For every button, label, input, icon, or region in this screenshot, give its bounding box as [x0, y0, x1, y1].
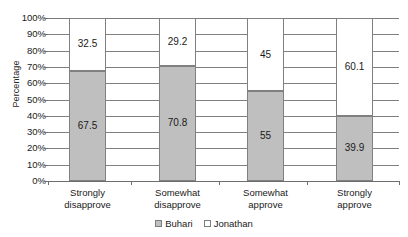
- bar-value-label-buhari: 39.9: [336, 143, 373, 153]
- legend-label: Buhari: [165, 218, 192, 229]
- category-label-line: Somewhat: [134, 187, 222, 199]
- x-axis-tick-mark: [399, 181, 400, 185]
- bar-value-label-jonathan: 45: [247, 50, 284, 60]
- category-label-line: Strongly: [44, 187, 132, 199]
- y-tick-label: 30%: [12, 127, 46, 137]
- x-axis-tick-mark: [131, 181, 132, 185]
- y-tick-label: 10%: [12, 160, 46, 170]
- x-axis-category-label: Stronglyapprove: [311, 187, 399, 211]
- category-label-line: Strongly: [311, 187, 399, 199]
- legend-label: Jonathan: [214, 218, 253, 229]
- y-axis-tick-labels: 100%90%80%70%60%50%40%30%20%10%0%: [12, 13, 46, 181]
- bar-value-label-jonathan: 32.5: [69, 39, 106, 49]
- bar-group[interactable]: 4555: [247, 18, 284, 181]
- y-tick-label: 70%: [12, 62, 46, 72]
- legend-entry[interactable]: Jonathan: [204, 218, 253, 229]
- legend-entry[interactable]: Buhari: [155, 218, 192, 229]
- stacked-bar-chart: Percentage 100%90%80%70%60%50%40%30%20%1…: [0, 0, 408, 237]
- category-label-line: approve: [222, 199, 310, 211]
- y-tick-label: 0%: [12, 176, 46, 186]
- category-label-line: disapprove: [134, 199, 222, 211]
- bar-group[interactable]: 32.567.5: [69, 18, 106, 181]
- legend-swatch-buhari-icon: [155, 220, 162, 227]
- bar-group[interactable]: 60.139.9: [336, 18, 373, 181]
- bar-value-label-buhari: 70.8: [159, 118, 196, 128]
- category-label-line: disapprove: [44, 199, 132, 211]
- y-axis-tick-mark: [44, 34, 48, 35]
- legend-swatch-jonathan-icon: [204, 220, 211, 227]
- y-axis-tick-mark: [44, 18, 48, 19]
- y-tick-label: 100%: [12, 13, 46, 23]
- y-axis-tick-mark: [44, 148, 48, 149]
- x-axis-tick-mark: [307, 181, 308, 185]
- x-axis-category-label: Somewhatdisapprove: [134, 187, 222, 211]
- y-tick-label: 60%: [12, 78, 46, 88]
- x-axis-category-label: Stronglydisapprove: [44, 187, 132, 211]
- chart-legend: BuhariJonathan: [0, 218, 408, 229]
- y-tick-label: 90%: [12, 29, 46, 39]
- x-axis-category-label: Somewhatapprove: [222, 187, 310, 211]
- plot-area: 32.567.529.270.8455560.139.9: [48, 18, 399, 181]
- x-axis-tick-mark: [219, 181, 220, 185]
- bar-value-label-buhari: 67.5: [69, 121, 106, 131]
- y-tick-label: 50%: [12, 95, 46, 105]
- x-axis-tick-mark: [48, 181, 49, 185]
- y-axis-tick-mark: [44, 83, 48, 84]
- x-axis-line: [48, 181, 399, 182]
- bar-value-label-jonathan: 60.1: [336, 62, 373, 72]
- bar-group[interactable]: 29.270.8: [159, 18, 196, 181]
- bar-value-label-buhari: 55: [247, 131, 284, 141]
- category-label-line: approve: [311, 199, 399, 211]
- y-tick-label: 80%: [12, 46, 46, 56]
- y-axis-tick-mark: [44, 165, 48, 166]
- y-axis-tick-mark: [44, 116, 48, 117]
- y-axis-tick-mark: [44, 51, 48, 52]
- category-label-line: Somewhat: [222, 187, 310, 199]
- y-tick-label: 40%: [12, 111, 46, 121]
- y-axis-tick-mark: [44, 67, 48, 68]
- y-tick-label: 20%: [12, 143, 46, 153]
- bar-value-label-jonathan: 29.2: [159, 37, 196, 47]
- y-axis-tick-mark: [44, 132, 48, 133]
- y-axis-tick-mark: [44, 100, 48, 101]
